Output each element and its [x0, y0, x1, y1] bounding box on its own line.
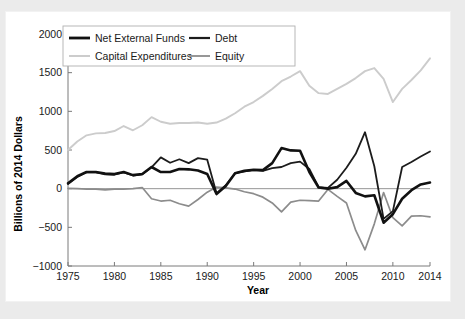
- y-tick-label: 500: [44, 144, 62, 156]
- legend-label-capital-expenditures: Capital Expenditures: [95, 50, 192, 62]
- legend-label-debt: Debt: [215, 32, 237, 44]
- x-tick-label: 2000: [288, 270, 312, 282]
- x-tick-label: 2010: [381, 270, 405, 282]
- x-tick-label: 1995: [242, 270, 266, 282]
- line-chart: 2000150010005000−500−1000 19751980198519…: [6, 12, 450, 301]
- x-tick-label: 2014: [418, 270, 442, 282]
- y-axis-title: Billions of 2014 Dollars: [12, 116, 24, 232]
- y-tick-label: −500: [38, 221, 62, 233]
- x-axis-title: Year: [247, 284, 269, 296]
- chart-legend: Net External FundsDebtCapital Expenditur…: [63, 26, 295, 66]
- legend-label-equity: Equity: [215, 50, 245, 62]
- legend-label-net-external-funds: Net External Funds: [95, 32, 185, 44]
- chart-figure-panel: 2000150010005000−500−1000 19751980198519…: [6, 12, 450, 301]
- x-tick-label: 1985: [149, 270, 173, 282]
- screenshot-root: 2000150010005000−500−1000 19751980198519…: [0, 0, 465, 319]
- y-tick-label: 1500: [39, 66, 63, 78]
- x-tick-label: 2005: [335, 270, 359, 282]
- x-tick-label: 1990: [196, 270, 220, 282]
- y-tick-label: 0: [56, 182, 62, 194]
- x-tick-label: 1975: [56, 270, 80, 282]
- y-tick-label: 2000: [39, 28, 63, 40]
- y-tick-label: 1000: [39, 105, 63, 117]
- x-tick-label: 1980: [103, 270, 127, 282]
